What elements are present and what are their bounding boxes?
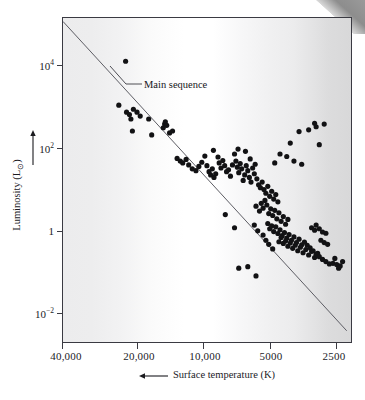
star-point <box>253 273 258 278</box>
star-point <box>325 242 330 247</box>
ytick-mark <box>57 231 63 232</box>
star-point <box>279 235 284 240</box>
star-point <box>314 124 319 129</box>
main-sequence-annotation-label: Main sequence <box>144 79 207 90</box>
y-axis-title-text-tail: ) <box>11 159 22 163</box>
star-point <box>282 230 287 235</box>
star-point <box>265 184 270 189</box>
star-point <box>226 167 231 172</box>
star-point <box>296 129 301 134</box>
star-point <box>236 266 241 271</box>
star-point <box>245 264 250 269</box>
main-sequence-line-segment <box>63 21 347 330</box>
star-point <box>138 113 143 118</box>
star-point <box>149 132 154 137</box>
star-point <box>264 202 269 207</box>
xtick-label-10000: 10,000 <box>189 350 220 362</box>
ytick-mark <box>57 148 63 149</box>
star-point <box>277 227 282 232</box>
star-point <box>286 232 291 237</box>
star-point <box>238 161 243 166</box>
star-data-points <box>116 59 345 279</box>
star-point <box>317 142 322 147</box>
ytick-mark <box>57 65 63 66</box>
star-point <box>262 198 267 203</box>
ytick-label-1: 1 <box>49 225 55 237</box>
star-point <box>199 160 204 165</box>
star-point <box>235 146 240 151</box>
star-point <box>248 156 253 161</box>
star-point <box>299 162 304 167</box>
xtick-mark <box>270 343 271 349</box>
star-point <box>260 233 265 238</box>
star-point <box>184 157 189 162</box>
star-point <box>127 112 132 117</box>
star-point <box>228 174 233 179</box>
star-point <box>170 128 175 133</box>
star-point <box>306 127 311 132</box>
star-point <box>332 256 337 261</box>
star-point <box>222 163 227 168</box>
star-point <box>242 172 247 177</box>
star-point <box>283 238 288 243</box>
ytick-label-1e4: 104 <box>39 58 54 72</box>
star-point <box>281 214 286 219</box>
star-point <box>312 228 317 233</box>
star-point <box>146 116 151 121</box>
star-point <box>260 179 265 184</box>
star-point <box>279 219 284 224</box>
star-point <box>275 199 280 204</box>
star-point <box>276 210 281 215</box>
star-point <box>270 213 275 218</box>
star-point <box>223 212 228 217</box>
star-point <box>254 176 259 181</box>
star-point <box>296 237 301 242</box>
scatter-canvas <box>63 18 351 342</box>
star-point <box>273 224 278 229</box>
star-point <box>253 204 258 209</box>
xtick-mark <box>137 343 138 349</box>
hr-diagram-figure: Main sequence 40,000 20,000 10,000 5000 … <box>0 0 365 400</box>
star-point <box>283 222 288 227</box>
star-point <box>285 217 290 222</box>
star-point <box>340 259 345 264</box>
star-point <box>230 162 235 167</box>
ytick-label-1em2: 10−2 <box>35 306 54 320</box>
star-point <box>202 153 207 158</box>
star-point <box>284 154 289 159</box>
star-point <box>241 178 246 183</box>
solar-symbol-icon: ⊙ <box>16 163 25 170</box>
xtick-mark <box>62 343 63 349</box>
ytick-label-1e2: 102 <box>39 141 54 155</box>
star-point <box>266 242 271 247</box>
star-point <box>291 234 296 239</box>
xtick-label-2500: 2500 <box>323 350 346 362</box>
star-point <box>248 179 253 184</box>
main-sequence-line <box>63 21 347 330</box>
star-point <box>215 154 220 159</box>
star-point <box>274 216 279 221</box>
star-point <box>204 163 209 168</box>
star-point <box>270 246 275 251</box>
ytick-mark <box>57 313 63 314</box>
plot-area <box>62 17 352 343</box>
star-point <box>243 149 248 154</box>
star-point <box>245 168 250 173</box>
star-point <box>291 159 296 164</box>
star-point <box>323 231 328 236</box>
star-point <box>277 151 282 156</box>
star-point <box>322 122 327 127</box>
star-point <box>336 266 341 271</box>
star-point <box>273 192 278 197</box>
star-point <box>298 245 303 250</box>
xtick-mark <box>336 343 337 349</box>
star-point <box>239 166 244 171</box>
star-point <box>128 116 133 121</box>
star-point <box>211 148 216 153</box>
xtick-label-5000: 5000 <box>260 350 283 362</box>
star-point <box>288 240 293 245</box>
star-point <box>164 123 169 128</box>
star-point <box>244 163 249 168</box>
star-point <box>247 175 252 180</box>
star-point <box>252 171 257 176</box>
